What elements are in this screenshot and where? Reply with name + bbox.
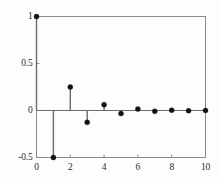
x-tick-label: 4 — [102, 163, 107, 173]
y-tick-label: 0 — [28, 106, 33, 116]
x-tick-label: 0 — [34, 163, 39, 173]
plot-canvas — [0, 0, 220, 181]
x-tick-label: 10 — [201, 163, 210, 173]
x-tick-label: 8 — [169, 163, 174, 173]
y-tick-label: 1 — [28, 12, 33, 22]
stem-lines — [37, 17, 138, 158]
y-tick-label: -0.5 — [18, 153, 32, 163]
stem-plot-figure: -0.500.51 0246810 — [0, 0, 220, 181]
stem-markers — [34, 14, 208, 160]
x-tick-label: 6 — [136, 163, 141, 173]
y-tick-label: 0.5 — [21, 59, 32, 69]
x-tick-label: 2 — [68, 163, 73, 173]
plot-frame — [37, 17, 206, 158]
